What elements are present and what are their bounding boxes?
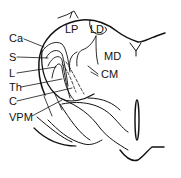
label-vpm: VPM [9, 112, 33, 123]
label-th: Th [9, 82, 22, 93]
label-ca: Ca [9, 33, 23, 44]
label-md: MD [104, 51, 121, 62]
thalamus-diagram: Ca S L Th C VPM LP LD MD CM [0, 0, 181, 178]
label-ld: LD [90, 24, 104, 35]
label-c: C [9, 96, 17, 107]
label-s: S [9, 52, 16, 63]
label-cm: CM [101, 69, 118, 80]
label-lp: LP [65, 24, 78, 35]
label-l: L [9, 68, 15, 79]
